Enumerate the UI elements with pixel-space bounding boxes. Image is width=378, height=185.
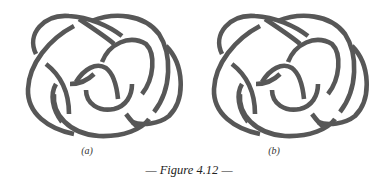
panel-label-a: (a) xyxy=(72,145,102,156)
figure-caption: — Figure 4.12 — xyxy=(0,163,378,178)
knot-diagram-b xyxy=(200,4,370,142)
knot-b-svg xyxy=(200,4,370,142)
panel-label-b: (b) xyxy=(259,145,289,156)
knot-a-svg xyxy=(14,4,184,142)
knot-diagram-a xyxy=(14,4,184,142)
